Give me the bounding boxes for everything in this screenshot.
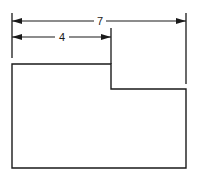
dimension-label-partial: 4	[59, 31, 65, 43]
dimension-label-overall: 7	[97, 15, 103, 27]
dimension-partial-width: 4	[12, 31, 111, 43]
stepped-shape-outline	[12, 64, 186, 168]
dimension-diagram: 7 4	[0, 0, 198, 176]
dimension-overall-width: 7	[12, 15, 186, 27]
